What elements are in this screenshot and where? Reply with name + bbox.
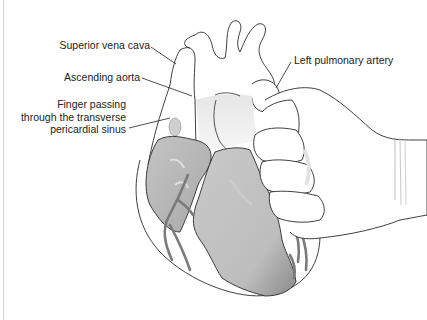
label-left-pulmonary-artery: Left pulmonary artery	[294, 54, 393, 67]
label-superior-vena-cava: Superior vena cava	[30, 39, 150, 52]
figure-canvas: Superior vena cava Ascending aorta Finge…	[0, 0, 427, 320]
label-finger-line-3: pericardial sinus	[10, 123, 126, 136]
label-finger-line-2: through the transverse	[10, 111, 126, 124]
label-finger-passing: Finger passing through the transverse pe…	[10, 98, 126, 136]
fingertip	[169, 118, 181, 136]
leader-finger	[129, 118, 170, 128]
leader-lpa	[276, 62, 291, 88]
label-ascending-aorta: Ascending aorta	[30, 71, 140, 84]
label-finger-line-1: Finger passing	[10, 98, 126, 111]
leader-svc	[151, 47, 176, 64]
hand	[254, 88, 427, 239]
